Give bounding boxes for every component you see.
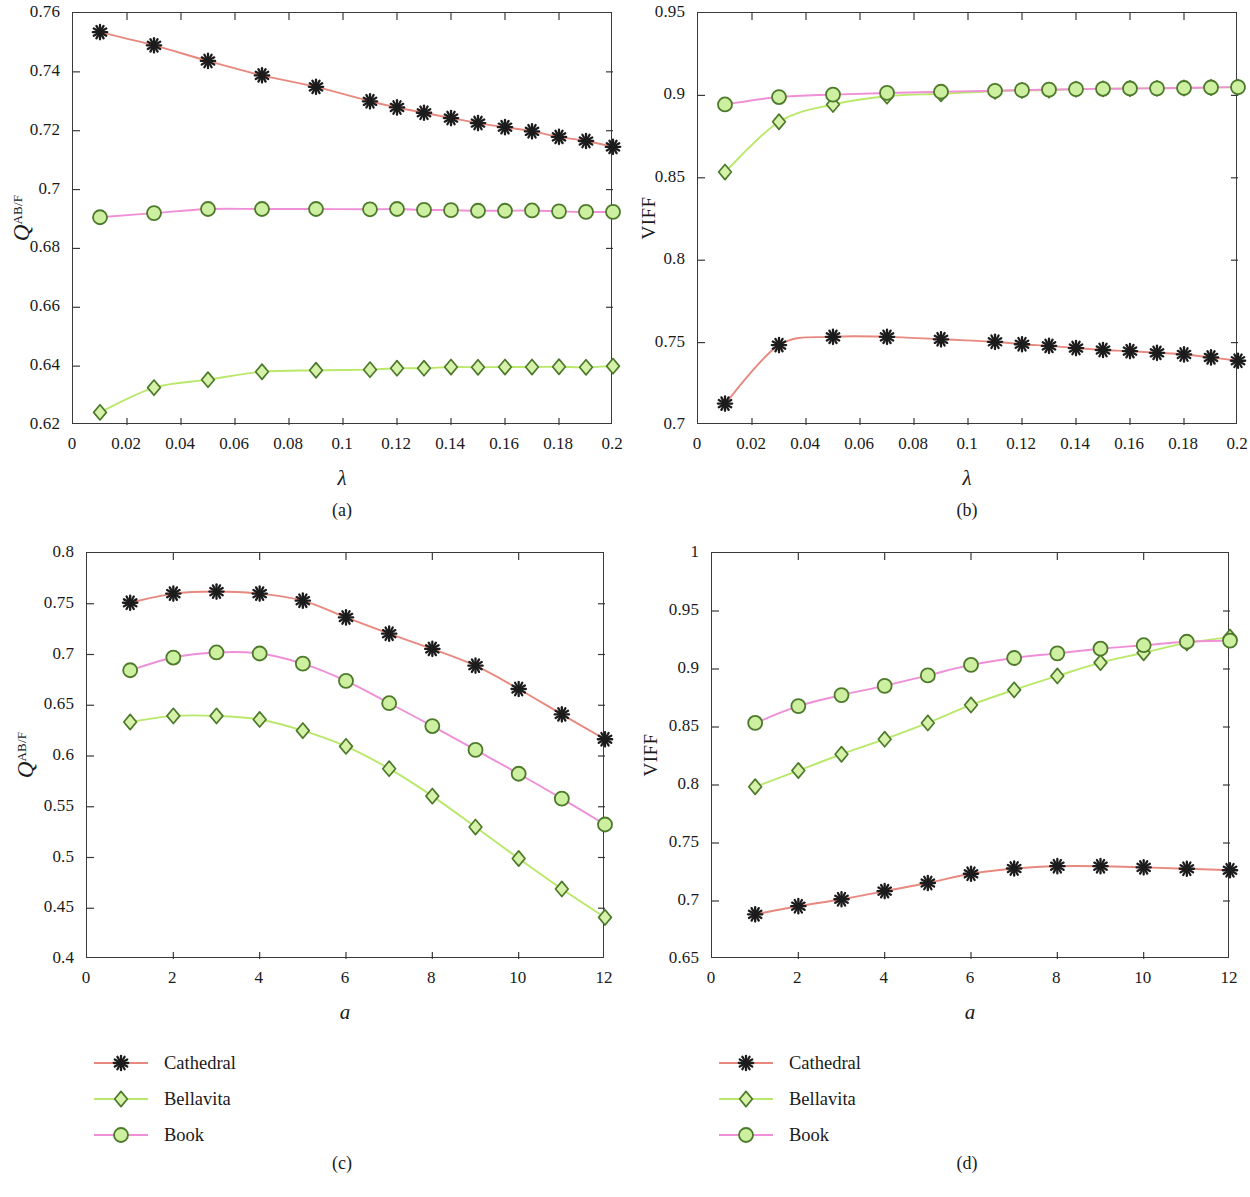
x-tick-label: 0.12 — [1006, 434, 1036, 454]
x-tick-label: 0.18 — [1168, 434, 1198, 454]
y-tick-label: 0.75 — [625, 332, 685, 352]
legend-label: Book — [789, 1125, 829, 1146]
plot-svg-c — [87, 553, 605, 959]
y-tick-label: 0.64 — [0, 355, 60, 375]
diamond-marker — [717, 1086, 775, 1112]
y-tick-label: 0.62 — [0, 414, 60, 434]
legend-label: Book — [164, 1125, 204, 1146]
subplot-c: 0.40.450.50.550.60.650.70.750.8 02468101… — [0, 540, 625, 1197]
x-tick-label: 0.14 — [435, 434, 465, 454]
legend-label: Bellavita — [789, 1089, 856, 1110]
plot-area-c — [86, 552, 604, 958]
x-axis-title-c: a — [285, 1000, 405, 1025]
x-tick-label: 12 — [1221, 968, 1238, 988]
series-cathedral — [748, 859, 1237, 922]
y-tick-label: 0.85 — [625, 167, 685, 187]
x-tick-label: 2 — [168, 968, 177, 988]
plot-area-b — [697, 12, 1237, 424]
y-tick-label: 0.5 — [0, 847, 74, 867]
y-tick-label: 0.7 — [0, 644, 74, 664]
y-tick-label: 0.7 — [625, 414, 685, 434]
x-tick-label: 0.1 — [331, 434, 352, 454]
plot-area-a — [72, 12, 612, 424]
series-bellavita — [94, 359, 620, 420]
y-tick-label: 0.72 — [0, 120, 60, 140]
x-tick-label: 0.18 — [543, 434, 573, 454]
x-tick-label: 0 — [707, 968, 716, 988]
legend-item: Cathedral — [717, 1045, 861, 1081]
x-tick-label: 4 — [254, 968, 263, 988]
y-tick-label: 0.75 — [0, 593, 74, 613]
series-cathedral — [718, 330, 1245, 411]
x-tick-label: 10 — [1134, 968, 1151, 988]
x-tick-label: 2 — [793, 968, 802, 988]
figure-container: 0.620.640.660.680.70.720.740.76 00.020.0… — [0, 0, 1250, 1197]
y-tick-label: 0.66 — [0, 296, 60, 316]
x-tick-label: 0.2 — [1226, 434, 1247, 454]
legend-item: Book — [717, 1117, 861, 1153]
x-tick-label: 0.16 — [1114, 434, 1144, 454]
legend-label: Cathedral — [789, 1053, 861, 1074]
y-tick-label: 0.76 — [0, 2, 60, 22]
y-tick-label: 0.85 — [625, 716, 699, 736]
x-tick-label: 6 — [966, 968, 975, 988]
asterisk-marker — [92, 1050, 150, 1076]
x-tick-label: 0.12 — [381, 434, 411, 454]
circle-marker — [92, 1122, 150, 1148]
series-bellavita — [719, 80, 1245, 180]
x-tick-label: 0.02 — [736, 434, 766, 454]
legend-d: CathedralBellavitaBook — [717, 1045, 861, 1153]
y-tick-label: 1 — [625, 542, 699, 562]
x-tick-label: 0.16 — [489, 434, 519, 454]
x-tick-label: 0.08 — [898, 434, 928, 454]
series-bellavita — [749, 630, 1237, 795]
x-tick-label: 12 — [596, 968, 613, 988]
series-cathedral — [93, 25, 620, 154]
y-tick-label: 0.9 — [625, 658, 699, 678]
x-axis-title-a: λ — [282, 466, 402, 491]
legend-label: Bellavita — [164, 1089, 231, 1110]
plot-svg-d — [712, 553, 1230, 959]
x-tick-label: 0.08 — [273, 434, 303, 454]
x-tick-label: 0.06 — [219, 434, 249, 454]
y-tick-label: 0.8 — [0, 542, 74, 562]
y-tick-label: 0.95 — [625, 600, 699, 620]
series-book — [93, 202, 620, 224]
x-tick-label: 0.2 — [601, 434, 622, 454]
y-tick-label: 0.74 — [0, 61, 60, 81]
y-axis-title-b: VIFF — [638, 196, 660, 239]
circle-marker — [717, 1122, 775, 1148]
y-axis-title-a: QAB/F — [9, 195, 35, 241]
y-tick-label: 0.55 — [0, 796, 74, 816]
x-tick-label: 0 — [82, 968, 91, 988]
series-book — [718, 80, 1245, 111]
plot-svg-a — [73, 13, 613, 425]
x-tick-label: 0.02 — [111, 434, 141, 454]
caption-d: (d) — [907, 1153, 1027, 1174]
series-bellavita — [124, 708, 612, 925]
series-book — [123, 645, 612, 831]
legend-item: Bellavita — [717, 1081, 861, 1117]
asterisk-marker — [717, 1050, 775, 1076]
x-tick-label: 0.14 — [1060, 434, 1090, 454]
legend-item: Book — [92, 1117, 236, 1153]
y-tick-label: 0.8 — [625, 774, 699, 794]
y-axis-title-d: VIFF — [640, 733, 662, 776]
legend-item: Bellavita — [92, 1081, 236, 1117]
caption-b: (b) — [907, 500, 1027, 521]
diamond-marker — [92, 1086, 150, 1112]
x-axis-title-d: a — [910, 1000, 1030, 1025]
plot-svg-b — [698, 13, 1238, 425]
x-tick-label: 0 — [68, 434, 77, 454]
x-tick-label: 8 — [427, 968, 436, 988]
legend-label: Cathedral — [164, 1053, 236, 1074]
y-tick-label: 0.8 — [625, 249, 685, 269]
x-tick-label: 8 — [1052, 968, 1061, 988]
y-tick-label: 0.7 — [625, 890, 699, 910]
x-tick-label: 10 — [509, 968, 526, 988]
x-tick-label: 4 — [879, 968, 888, 988]
x-tick-label: 0.06 — [844, 434, 874, 454]
legend-c: CathedralBellavitaBook — [92, 1045, 236, 1153]
x-tick-label: 0.1 — [956, 434, 977, 454]
y-tick-label: 0.9 — [625, 84, 685, 104]
